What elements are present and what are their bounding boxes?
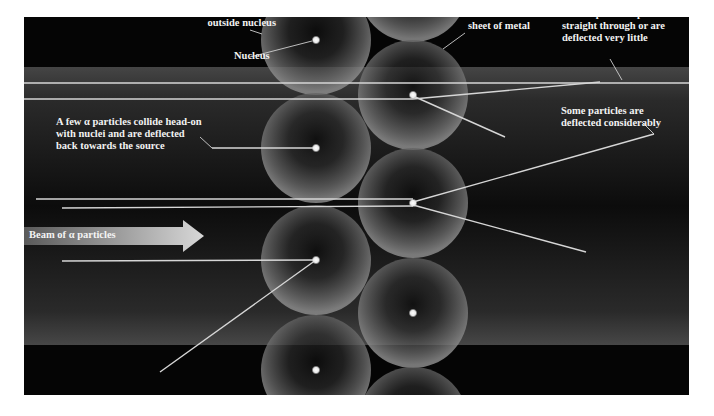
label-electrons: Electrons occupy space outside nucleus [138, 17, 276, 29]
nucleus-dot-icon [312, 366, 321, 375]
nucleus-dot-icon [409, 91, 418, 100]
nucleus-dot-icon [312, 256, 321, 265]
label-most-pass: Most α particles pass straight through o… [562, 17, 665, 44]
nucleus-dot-icon [409, 309, 418, 318]
label-nucleus: Nucleus [234, 50, 270, 62]
label-atoms: Atoms in thin sheet of metal [468, 17, 530, 32]
rutherford-diagram: Electrons occupy space outside nucleus N… [24, 17, 689, 395]
diagram-canvas [24, 17, 689, 395]
label-few-collide: A few α particles collide head-on with n… [56, 116, 202, 152]
nucleus-dot-icon [409, 199, 418, 208]
label-beam: Beam of α particles [29, 229, 116, 240]
label-some-deflected: Some particles are deflected considerabl… [561, 105, 661, 129]
nucleus-dot-icon [312, 144, 321, 153]
nucleus-dot-icon [312, 36, 321, 45]
